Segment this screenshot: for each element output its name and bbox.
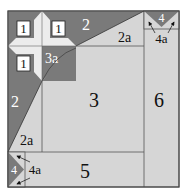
label-6: 6 xyxy=(154,89,164,111)
svg-text:1: 1 xyxy=(55,21,62,36)
label-5: 5 xyxy=(80,160,90,182)
quilt-block-diagram: 1 1 1 3a 2 2a 2 2a 3 6 4 4a 5 4 4a xyxy=(0,0,187,192)
svg-text:4: 4 xyxy=(159,11,165,25)
svg-text:4a: 4a xyxy=(29,162,42,177)
svg-text:1: 1 xyxy=(20,21,27,36)
label-2a-left: 2a xyxy=(20,133,34,148)
label-2a-top: 2a xyxy=(118,30,132,45)
svg-text:4: 4 xyxy=(11,163,17,177)
label-2-left: 2 xyxy=(11,93,19,110)
piece-1-c: 1 xyxy=(17,56,30,71)
piece-1-b: 1 xyxy=(52,21,65,36)
label-3: 3 xyxy=(89,89,99,111)
svg-text:1: 1 xyxy=(20,56,27,71)
label-2-top: 2 xyxy=(82,16,90,33)
piece-1-a: 1 xyxy=(17,21,30,36)
svg-text:4a: 4a xyxy=(155,31,168,46)
label-3a: 3a xyxy=(45,51,59,66)
